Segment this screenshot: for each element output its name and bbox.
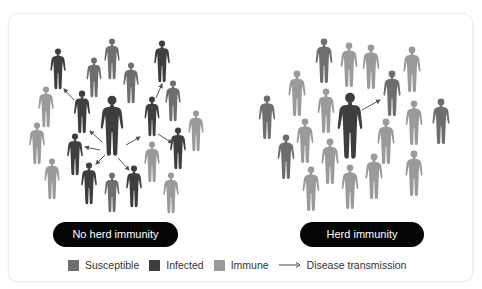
immune-swatch-icon bbox=[214, 260, 225, 271]
person-susceptible-icon bbox=[123, 63, 138, 104]
legend-label-transmission: Disease transmission bbox=[307, 259, 407, 271]
infected-swatch-icon bbox=[149, 260, 160, 271]
person-immune-icon bbox=[363, 45, 380, 90]
person-susceptible-icon bbox=[259, 96, 275, 140]
person-immune-icon bbox=[144, 142, 159, 183]
person-immune-icon bbox=[403, 47, 420, 92]
person-susceptible-icon bbox=[316, 39, 333, 84]
person-infected-icon bbox=[170, 128, 186, 170]
person-infected-icon bbox=[50, 49, 65, 90]
arrow-right-icon bbox=[279, 261, 301, 269]
person-infected-icon bbox=[338, 93, 363, 159]
person-infected-icon bbox=[74, 91, 90, 134]
person-immune-icon bbox=[406, 101, 423, 146]
legend-item-immune: Immune bbox=[214, 259, 269, 271]
person-susceptible-icon bbox=[383, 71, 400, 116]
person-susceptible-icon bbox=[278, 135, 295, 180]
person-immune-icon bbox=[38, 87, 53, 128]
person-infected-icon bbox=[101, 96, 123, 156]
person-immune-icon bbox=[377, 119, 394, 164]
person-infected-icon bbox=[126, 166, 142, 208]
person-susceptible-icon bbox=[432, 99, 449, 144]
legend: Susceptible Infected Immune Disease tran… bbox=[68, 257, 416, 273]
legend-item-transmission: Disease transmission bbox=[279, 259, 407, 271]
person-immune-icon bbox=[163, 173, 178, 214]
transmission-arrow-icon bbox=[85, 147, 100, 150]
transmission-arrow-icon bbox=[96, 155, 105, 164]
person-immune-icon bbox=[44, 159, 59, 200]
transmission-arrow-icon bbox=[126, 137, 140, 145]
transmission-arrow-icon bbox=[64, 89, 74, 100]
person-immune-icon bbox=[321, 139, 338, 184]
figures-layer bbox=[29, 39, 449, 214]
transmission-arrow-icon bbox=[158, 134, 172, 143]
herd-immunity-label: Herd immunity bbox=[300, 222, 424, 247]
person-immune-icon bbox=[341, 43, 358, 88]
person-infected-icon bbox=[154, 41, 170, 83]
person-infected-icon bbox=[145, 96, 160, 136]
transmission-arrow-icon bbox=[118, 158, 129, 170]
person-immune-icon bbox=[188, 111, 203, 152]
legend-item-susceptible: Susceptible bbox=[68, 259, 139, 271]
legend-item-infected: Infected bbox=[149, 259, 203, 271]
person-susceptible-icon bbox=[104, 39, 119, 80]
transmission-arrow-icon bbox=[362, 100, 380, 110]
person-immune-icon bbox=[365, 154, 382, 199]
transmission-arrow-icon bbox=[156, 84, 162, 98]
person-infected-icon bbox=[67, 134, 83, 176]
legend-label-susceptible: Susceptible bbox=[85, 259, 139, 271]
legend-label-immune: Immune bbox=[231, 259, 269, 271]
person-immune-icon bbox=[342, 165, 359, 210]
susceptible-swatch-icon bbox=[68, 260, 79, 271]
person-immune-icon bbox=[303, 167, 320, 212]
person-immune-icon bbox=[297, 119, 314, 164]
person-infected-icon bbox=[81, 163, 97, 205]
person-immune-icon bbox=[405, 151, 422, 196]
person-immune-icon bbox=[318, 89, 335, 134]
transmission-arrow-icon bbox=[90, 131, 102, 142]
person-susceptible-icon bbox=[87, 57, 102, 97]
person-immune-icon bbox=[288, 71, 305, 116]
person-susceptible-icon bbox=[165, 81, 180, 122]
legend-label-infected: Infected bbox=[166, 259, 203, 271]
no-herd-immunity-label: No herd immunity bbox=[53, 222, 178, 247]
person-susceptible-icon bbox=[105, 172, 120, 212]
person-immune-icon bbox=[29, 123, 45, 165]
